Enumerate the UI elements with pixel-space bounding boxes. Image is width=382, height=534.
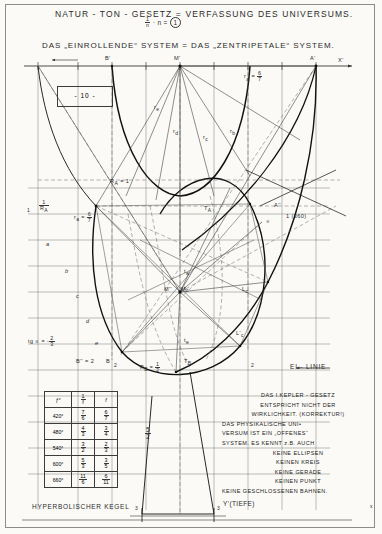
label-t-e: te	[184, 337, 189, 345]
label-alpha-angle: ∝	[266, 218, 270, 224]
table-cell-inverse: 116	[72, 472, 95, 488]
label-tangent-alpha: tg ∝ = -23	[28, 336, 55, 348]
point-label-M-top: M'	[174, 55, 181, 61]
label-x-small: x	[370, 503, 373, 509]
note-line: KEINEN PUNKT	[222, 477, 374, 487]
label-M-double-prime: M''	[164, 286, 172, 292]
table-row: 660°116611	[45, 472, 118, 488]
table-header-cell: ƒ°	[45, 392, 72, 408]
note-line: VERSUM IST EIN „OFFENES“	[222, 429, 374, 439]
label-L-c-prime: L'c	[236, 330, 244, 338]
label-r-a-top: ra = 67	[244, 71, 262, 83]
formula-circled-one: 1	[170, 17, 181, 28]
table-header-cell: 1f	[72, 392, 95, 408]
table-cell-inverse: 53	[72, 456, 95, 472]
curve-label-d: d	[86, 318, 90, 324]
label-r-b: rb	[230, 128, 235, 136]
table-cell-inverse: 32	[72, 440, 95, 456]
label-R-B: RB = 12	[140, 362, 160, 374]
point-label-B-top: B'	[105, 55, 111, 61]
label-inverse-RA: 1RA	[39, 200, 49, 213]
label-A-double-prime: A''	[274, 202, 281, 208]
label-t-a: ta	[184, 268, 189, 276]
table-header-cell: f	[95, 392, 118, 408]
curve-label-a: a	[46, 241, 50, 247]
note-line: KEINE GESCHLOSSENEN BAHNEN.	[222, 487, 374, 497]
table-row: 540°3223	[45, 440, 118, 456]
label-r-a-left: ra = 67	[74, 212, 92, 224]
curve-label-c: c	[76, 293, 79, 299]
label-two-right: 2	[251, 362, 254, 368]
bottom-tick-left: 3	[135, 505, 138, 511]
note-line: WIRKLICHKEIT. (KORREKTUR!)	[222, 410, 374, 420]
table-cell-degrees: 660°	[45, 472, 72, 488]
label-T-B: TB	[184, 358, 192, 366]
label-R-A: RA = 1	[110, 178, 129, 186]
table-cell-inverse: 76	[72, 408, 95, 424]
table-cell-degrees: 600°	[45, 456, 72, 472]
table-cell-value: 35	[95, 456, 118, 472]
label-r-d: rd	[173, 128, 178, 136]
table-cell-degrees: 480°	[45, 424, 72, 440]
formula-rest: · n =	[153, 19, 168, 26]
y-axis-label: Y'(TIEFE)	[223, 500, 255, 507]
formula-fraction: 1 n	[145, 17, 150, 29]
table-row: 420°7667	[45, 408, 118, 424]
note-line: KEINE ELLIPSEN	[222, 449, 374, 459]
table-cell-degrees: 540°	[45, 440, 72, 456]
curve-label-b: b	[65, 268, 69, 274]
hyperbolic-cone-lines	[130, 372, 226, 516]
table-cell-degrees: 420°	[45, 408, 72, 424]
label-ei-linie: EI - LINIE	[290, 363, 326, 370]
x-axis	[24, 60, 352, 70]
table-cell-value: 23	[95, 440, 118, 456]
table-row: 480°4334	[45, 424, 118, 440]
x-axis-label: X'	[338, 57, 344, 63]
page-subtitle: DAS „EINROLLENDE“ SYSTEM = DAS „ZENTRIPE…	[42, 41, 335, 50]
note-line: DAS I.KEPLER - GESETZ	[222, 391, 374, 401]
label-five-halves: 52	[145, 427, 151, 441]
note-line: KEINE GERADE	[222, 468, 374, 478]
table-cell-inverse: 43	[72, 424, 95, 440]
note-line: KEINEN KREIS	[222, 458, 374, 468]
table-cell-value: 611	[95, 472, 118, 488]
label-r-e: re	[154, 104, 159, 112]
page-number-label: - 10 -	[58, 92, 112, 99]
axis-A-diagonal	[246, 170, 346, 216]
table-cell-value: 67	[95, 408, 118, 424]
radius-fan-from-M	[96, 66, 316, 256]
note-line: SYSTEM. ES KENNT z.B. AUCH	[222, 439, 374, 449]
diagram-page: NATUR - TON - GESETZ = VERFASSUNG DES UN…	[0, 0, 382, 534]
label-one-left: 1	[27, 207, 30, 213]
label-one-360: 1 (360)	[286, 213, 307, 219]
ratio-table-body: ƒ°1ff420°7667480°4334540°3223600°5335660…	[45, 392, 118, 488]
point-label-A-top: A'	[310, 55, 316, 61]
label-B: B	[106, 358, 110, 364]
header-formula: 1 n · n = 1	[145, 17, 181, 29]
note-line: DAS PHYSIKALISCHE UNI•	[222, 420, 374, 430]
note-text-block: DAS I.KEPLER - GESETZENTSPRICHT NICHT DE…	[222, 391, 374, 497]
label-T-A: TA	[204, 205, 212, 213]
label-r-c: rc	[203, 134, 208, 142]
egg-curve-ei-linie	[93, 66, 316, 375]
label-M: M	[181, 286, 186, 292]
label-two-left: 2	[114, 362, 117, 368]
table-cell-value: 34	[95, 424, 118, 440]
label-B-double-prime: B'' = 2	[76, 358, 94, 364]
bottom-tick-right: 3	[217, 505, 220, 511]
node-dots	[95, 64, 318, 373]
page-number-box: - 10 -	[57, 86, 113, 107]
bottom-axis	[22, 508, 352, 522]
page-title: NATUR - TON - GESETZ = VERFASSUNG DES UN…	[55, 9, 353, 19]
label-L-c: Lc	[242, 286, 248, 294]
note-line: ENTSPRICHT NICHT DER	[222, 401, 374, 411]
ratio-table: ƒ°1ff420°7667480°4334540°3223600°5335660…	[44, 391, 118, 488]
label-hyperbolic-cone: HYPERBOLISCHER KEGEL	[32, 503, 129, 510]
curve-label-e: e	[95, 340, 99, 346]
table-row: 600°5335	[45, 456, 118, 472]
table-header-row: ƒ°1ff	[45, 392, 118, 408]
